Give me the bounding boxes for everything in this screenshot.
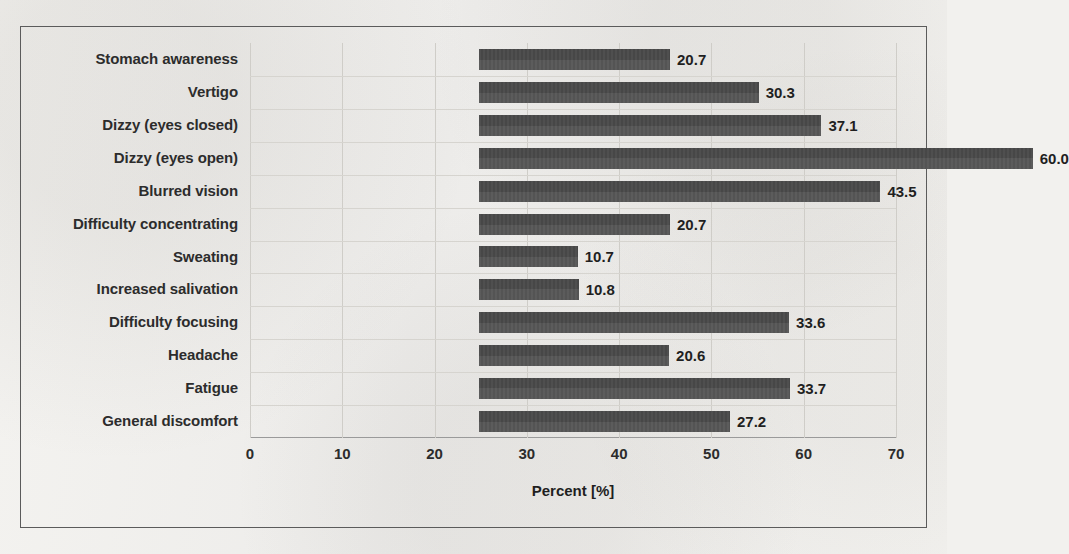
x-tick-label: 10 xyxy=(334,445,351,462)
gridline-vertical xyxy=(896,43,897,438)
category-label: Headache xyxy=(0,339,238,372)
category-label: Stomach awareness xyxy=(0,43,238,76)
bar-track: 43.5 xyxy=(479,175,896,208)
x-tick-label: 30 xyxy=(519,445,536,462)
x-axis-title: Percent [%] xyxy=(250,482,896,499)
bar-track: 37.1 xyxy=(479,109,896,142)
category-label: Increased salivation xyxy=(0,273,238,306)
bar-row: Dizzy (eyes open)60.0 xyxy=(250,142,896,175)
bar-value-label: 10.8 xyxy=(586,279,615,300)
category-label: Difficulty focusing xyxy=(0,306,238,339)
bar-row: Increased salivation10.8 xyxy=(250,273,896,306)
bar[interactable] xyxy=(479,148,1033,169)
category-label: Blurred vision xyxy=(0,175,238,208)
bar-value-label: 43.5 xyxy=(887,181,916,202)
bar[interactable] xyxy=(479,279,579,300)
chart-frame: Stomach awareness20.7Vertigo30.3Dizzy (e… xyxy=(20,26,927,528)
bar-track: 20.7 xyxy=(479,43,896,76)
bar-value-label: 20.7 xyxy=(677,214,706,235)
x-tick-label: 20 xyxy=(426,445,443,462)
x-tick-label: 0 xyxy=(246,445,254,462)
bar-row: Blurred vision43.5 xyxy=(250,175,896,208)
bar-track: 10.7 xyxy=(479,241,896,274)
bar-row: Stomach awareness20.7 xyxy=(250,43,896,76)
bar-value-label: 60.0 xyxy=(1040,148,1069,169)
bar-row: Sweating10.7 xyxy=(250,241,896,274)
x-axis-tick-labels: 010203040506070 xyxy=(250,445,896,469)
bar[interactable] xyxy=(479,49,670,70)
bar-track: 30.3 xyxy=(479,76,896,109)
bar[interactable] xyxy=(479,214,670,235)
bar-track: 33.7 xyxy=(479,372,896,405)
bar[interactable] xyxy=(479,345,669,366)
bar-track: 10.8 xyxy=(479,273,896,306)
x-tick-label: 40 xyxy=(611,445,628,462)
x-tick-label: 50 xyxy=(703,445,720,462)
bar-value-label: 33.6 xyxy=(796,312,825,333)
bar-track: 27.2 xyxy=(479,405,896,438)
bar[interactable] xyxy=(479,411,730,432)
category-label: Vertigo xyxy=(0,76,238,109)
category-label: Difficulty concentrating xyxy=(0,208,238,241)
bar-row: General discomfort27.2 xyxy=(250,405,896,438)
bar-row: Vertigo30.3 xyxy=(250,76,896,109)
plot-area: Stomach awareness20.7Vertigo30.3Dizzy (e… xyxy=(250,43,896,438)
bar-row: Fatigue33.7 xyxy=(250,372,896,405)
category-label: Dizzy (eyes open) xyxy=(0,142,238,175)
bar-track: 60.0 xyxy=(479,142,896,175)
bar-track: 20.7 xyxy=(479,208,896,241)
bar-value-label: 27.2 xyxy=(737,411,766,432)
category-label: General discomfort xyxy=(0,405,238,438)
bar-value-label: 30.3 xyxy=(766,82,795,103)
bar-row: Difficulty focusing33.6 xyxy=(250,306,896,339)
bar-row: Headache20.6 xyxy=(250,339,896,372)
bar[interactable] xyxy=(479,181,880,202)
bar[interactable] xyxy=(479,378,790,399)
category-label: Sweating xyxy=(0,241,238,274)
bar[interactable] xyxy=(479,246,578,267)
bar-value-label: 20.7 xyxy=(677,49,706,70)
bar-value-label: 10.7 xyxy=(585,246,614,267)
bar-row: Difficulty concentrating20.7 xyxy=(250,208,896,241)
category-label: Fatigue xyxy=(0,372,238,405)
bar-track: 20.6 xyxy=(479,339,896,372)
bar[interactable] xyxy=(479,312,789,333)
bar-row: Dizzy (eyes closed)37.1 xyxy=(250,109,896,142)
bar-value-label: 20.6 xyxy=(676,345,705,366)
category-label: Dizzy (eyes closed) xyxy=(0,109,238,142)
bar[interactable] xyxy=(479,82,759,103)
x-tick-label: 70 xyxy=(888,445,905,462)
bar-value-label: 33.7 xyxy=(797,378,826,399)
bar-value-label: 37.1 xyxy=(828,115,857,136)
bar[interactable] xyxy=(479,115,821,136)
bar-track: 33.6 xyxy=(479,306,896,339)
x-tick-label: 60 xyxy=(795,445,812,462)
